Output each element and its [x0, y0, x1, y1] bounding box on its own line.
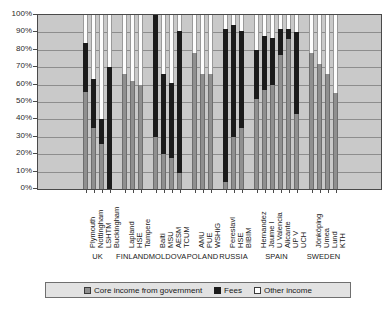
bar-segment-core [153, 137, 157, 189]
country-group-labels: UKFINLANDMOLDOVAPOLANDRUSSIASPAINSWEDEN [38, 252, 381, 266]
bar [208, 15, 212, 189]
bar-segment-fees [91, 79, 95, 128]
bar-segment-core [317, 64, 321, 189]
legend-swatch-fees-icon [214, 287, 221, 294]
bar-segment-other [91, 15, 95, 79]
bar-segment-core [192, 53, 196, 189]
bar-segment-other [223, 15, 227, 29]
bar-segment-other [208, 15, 212, 74]
x-axis-tick-mark [195, 190, 196, 193]
y-axis-tick-20: 20% [0, 149, 32, 157]
legend-item-fees: Fees [214, 286, 242, 295]
chart-legend: Core income from government Fees Other i… [45, 282, 351, 298]
bar-segment-other [231, 15, 235, 25]
x-axis-tick-mark [328, 190, 329, 193]
x-axis-tick-mark [164, 190, 165, 193]
bar-segment-other [333, 15, 337, 93]
bar-segment-other [278, 15, 282, 29]
x-axis-tick-mark [125, 190, 126, 193]
y-axis-tick-10: 10% [0, 167, 32, 175]
bar-segment-core [333, 93, 337, 189]
bar [161, 15, 165, 189]
x-axis-tick-mark [289, 190, 290, 193]
y-axis-tick-80: 80% [0, 45, 32, 53]
y-axis-tick-mark-0 [33, 188, 37, 189]
bar-segment-other [83, 15, 87, 43]
x-axis-tick-mark [242, 190, 243, 193]
bar-segment-core [208, 74, 212, 189]
bar-segment-fees [99, 119, 103, 143]
y-axis-tick-30: 30% [0, 132, 32, 140]
bar [200, 15, 204, 189]
x-axis-tick-mark [273, 190, 274, 193]
bar-segment-core [325, 74, 329, 189]
x-axis-tick-mark [102, 190, 103, 193]
bar-segment-other [99, 15, 103, 119]
bar [333, 15, 337, 189]
bar-segment-other [200, 15, 204, 74]
bar [231, 15, 235, 189]
bar-segment-other [325, 15, 329, 74]
x-axis-tick-mark [203, 190, 204, 193]
x-axis-tick-mark [86, 190, 87, 193]
x-axis-label-wrap: Buckingham [105, 192, 115, 250]
y-axis-tick-90: 90% [0, 27, 32, 35]
y-axis-tick-100: 100% [0, 10, 32, 18]
legend-label-core: Core income from government [94, 286, 202, 295]
bar-segment-other [286, 15, 290, 29]
bar-segment-fees [223, 29, 227, 182]
x-axis-tick-mark [257, 190, 258, 193]
bar [122, 15, 126, 189]
bar-segment-core [239, 128, 243, 189]
bar-segment-fees [294, 32, 298, 114]
bar-segment-fees [177, 31, 181, 174]
bar-segment-other [309, 15, 313, 53]
legend-swatch-other-icon [254, 287, 261, 294]
bar-segment-other [169, 15, 173, 83]
bar [239, 15, 243, 189]
x-axis-tick-mark [172, 190, 173, 193]
bar [192, 15, 196, 189]
bar-segment-core [262, 90, 266, 189]
bar [278, 15, 282, 189]
bar-segment-other [161, 15, 165, 74]
y-axis-tick-mark-10 [33, 171, 37, 172]
bar-segment-other [262, 15, 266, 36]
bar-segment-fees [107, 67, 111, 189]
x-axis-tick-mark [297, 190, 298, 193]
legend-item-other: Other income [254, 286, 312, 295]
bar-segment-core [254, 99, 258, 189]
bar-segment-other [177, 15, 181, 31]
bar-segment-core [278, 55, 282, 189]
y-axis-tick-mark-40 [33, 118, 37, 119]
bar-segment-core [177, 173, 181, 189]
bar-segment-fees [231, 25, 235, 136]
bar-segment-fees [161, 74, 165, 154]
x-axis-tick-mark [281, 190, 282, 193]
income-composition-chart: 100%90%80%70%60%50%40%30%20%10%0% Plymou… [0, 0, 387, 317]
y-axis-tick-mark-80 [33, 49, 37, 50]
bar-segment-core [83, 92, 87, 189]
bar-segment-core [231, 137, 235, 189]
bar [153, 15, 157, 189]
bar-segment-other [270, 15, 274, 38]
bar-segment-fees [254, 50, 258, 99]
x-axis-tick-mark [226, 190, 227, 193]
bar [99, 15, 103, 189]
bar [107, 15, 111, 189]
bar-segment-core [161, 154, 165, 189]
y-axis-tick-mark-50 [33, 101, 37, 102]
bar-segment-core [309, 53, 313, 189]
bar [317, 15, 321, 189]
bar [177, 15, 181, 189]
legend-label-other: Other income [264, 286, 312, 295]
x-axis-tick-mark [211, 190, 212, 193]
y-axis-tick-mark-30 [33, 136, 37, 137]
x-axis-tick-mark [265, 190, 266, 193]
bar-segment-fees [169, 83, 173, 158]
bar [309, 15, 313, 189]
bar-segment-fees [83, 43, 87, 92]
y-axis-tick-70: 70% [0, 62, 32, 70]
bar-segment-other [138, 15, 142, 85]
bar-segment-other [122, 15, 126, 74]
